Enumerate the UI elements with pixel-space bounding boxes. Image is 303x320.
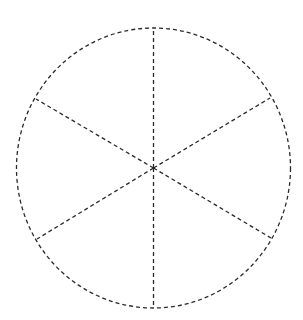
spokes-group <box>36 28 271 308</box>
spoke-line-3 <box>154 168 272 238</box>
spoke-line-6 <box>36 99 154 168</box>
segmented-circle-diagram <box>0 0 303 320</box>
spoke-line-2 <box>154 98 271 168</box>
diagram-canvas <box>0 0 303 320</box>
spoke-line-5 <box>37 168 154 239</box>
